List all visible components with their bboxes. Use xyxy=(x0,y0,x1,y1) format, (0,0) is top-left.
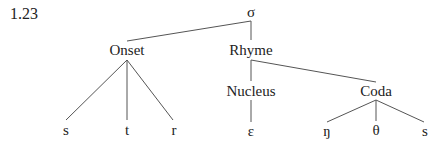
node-sigma: σ xyxy=(247,5,255,20)
segment-coda-theta: θ xyxy=(372,123,379,138)
segment-onset-r: r xyxy=(172,123,177,138)
node-nucleus: Nucleus xyxy=(226,84,275,99)
node-rhyme: Rhyme xyxy=(229,43,272,58)
segment-nucleus-epsilon: ɛ xyxy=(248,124,254,139)
branch-onset-r xyxy=(127,60,173,120)
node-coda: Coda xyxy=(360,84,392,99)
branch-sigma-onset xyxy=(127,21,251,41)
figure-label: 1.23 xyxy=(10,5,38,23)
segment-coda-s: s xyxy=(422,124,428,139)
branch-coda-eng xyxy=(327,100,376,122)
branch-onset-s xyxy=(66,60,127,120)
segment-onset-s: s xyxy=(63,123,69,138)
node-onset: Onset xyxy=(110,43,145,58)
segment-coda-eng: ŋ xyxy=(323,124,330,139)
branch-coda-s xyxy=(376,100,424,122)
segment-onset-t: t xyxy=(125,123,129,138)
branch-rhyme-coda xyxy=(251,60,376,82)
